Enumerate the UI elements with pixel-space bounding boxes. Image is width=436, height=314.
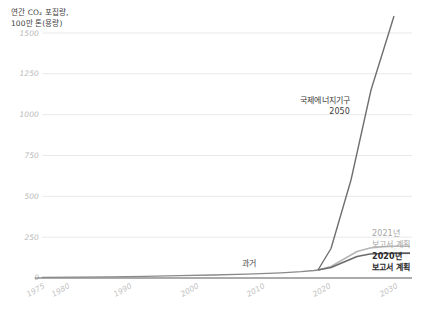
annotation-past: 과거 [242, 259, 256, 270]
gridlines [42, 33, 412, 237]
annotation-report-2020: 2020년 보고서 계획 [372, 252, 410, 273]
series-line-past [42, 270, 318, 277]
chart-plot-svg [0, 0, 436, 314]
chart-container: 연간 CO₂ 포집량, 100만 톤(용량) 1500 1250 1000 75… [0, 0, 436, 314]
annotation-report-2021: 2021년 보고서 계획 [372, 229, 410, 250]
annotation-iea-2050: 국제에너지기구 2050 [275, 96, 350, 117]
